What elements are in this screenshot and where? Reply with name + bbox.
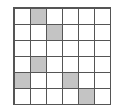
shaded-cell [46, 24, 63, 41]
grid-cell [62, 56, 79, 73]
grid-cell [94, 88, 111, 105]
shaded-grid [13, 7, 111, 105]
grid-cell [94, 56, 111, 73]
grid-cell [14, 8, 31, 25]
shaded-cell [30, 56, 47, 73]
grid-cell [14, 88, 31, 105]
grid-cell [94, 72, 111, 89]
grid-cell [62, 40, 79, 57]
shaded-cell [30, 8, 47, 25]
grid-cell [78, 8, 95, 25]
grid-cell [78, 24, 95, 41]
grid-cell [62, 88, 79, 105]
shaded-cell [78, 88, 95, 105]
grid-cell [46, 88, 63, 105]
grid-cell [94, 8, 111, 25]
grid-cell [94, 24, 111, 41]
grid-cell [30, 40, 47, 57]
grid-cell [30, 72, 47, 89]
shaded-cell [14, 72, 31, 89]
grid-cell [78, 40, 95, 57]
grid-cell [46, 72, 63, 89]
grid-cell [46, 56, 63, 73]
grid-cell [62, 8, 79, 25]
shaded-cell [62, 72, 79, 89]
grid-cell [14, 40, 31, 57]
grid-cell [94, 40, 111, 57]
grid-cell [78, 56, 95, 73]
grid-cell [46, 8, 63, 25]
grid-cell [30, 24, 47, 41]
grid-cell [78, 72, 95, 89]
grid-cell [46, 40, 63, 57]
grid-cell [62, 24, 79, 41]
grid-cell [14, 24, 31, 41]
grid-cell [30, 88, 47, 105]
grid-cell [14, 56, 31, 73]
